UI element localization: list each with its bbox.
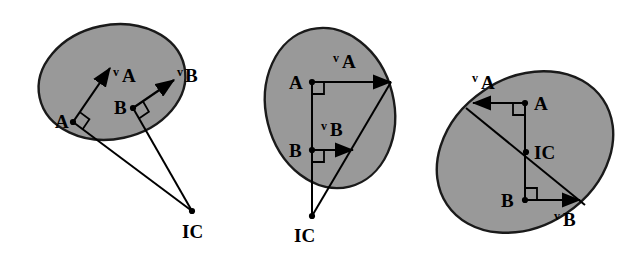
velocity-label-vB-prefix: v	[554, 209, 560, 223]
velocity-label-vB-subscript: B	[563, 209, 576, 230]
point-label-ic: IC	[534, 142, 555, 163]
velocity-label-vA-subscript: A	[481, 72, 495, 93]
velocity-label-vA-prefix: v	[472, 71, 478, 85]
velocity-label-vA-prefix: v	[113, 65, 119, 79]
point-label-a: A	[289, 72, 303, 93]
velocity-label-vB-subscript: B	[330, 119, 343, 140]
point-label-b: B	[114, 97, 127, 118]
point-label-b: B	[501, 190, 514, 211]
point-label-a: A	[534, 93, 548, 114]
velocity-label-vB-subscript: B	[185, 65, 198, 86]
velocity-label-vA-subscript: A	[342, 51, 356, 72]
point-marker-a	[309, 79, 315, 85]
point-marker-b	[309, 147, 315, 153]
point-label-ic: IC	[182, 221, 203, 242]
point-marker-a	[70, 119, 76, 125]
point-label-a: A	[55, 111, 69, 132]
point-label-b: B	[289, 140, 302, 161]
point-marker-b	[522, 197, 528, 203]
ic-diagram-svg: vAvBABICvAvBABICvAvBABIC	[0, 0, 643, 262]
point-marker-ic	[523, 149, 529, 155]
velocity-label-vA-prefix: v	[333, 51, 339, 65]
point-marker-ic	[189, 208, 195, 214]
point-label-ic: IC	[294, 225, 315, 246]
velocity-label-vB-prefix: v	[177, 65, 183, 79]
point-marker-a	[522, 100, 528, 106]
point-marker-b	[130, 105, 136, 111]
figure-root: vAvBABICvAvBABICvAvBABIC	[0, 0, 643, 262]
point-marker-ic	[309, 213, 315, 219]
velocity-label-vA-subscript: A	[122, 65, 136, 86]
velocity-label-vB-prefix: v	[321, 119, 327, 133]
